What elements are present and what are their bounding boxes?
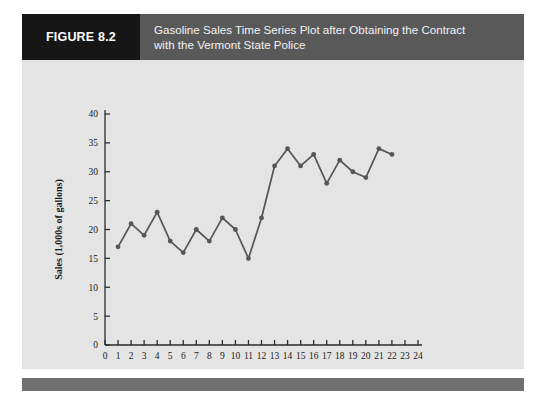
data-point	[220, 216, 225, 221]
x-tick-label: 22	[387, 351, 397, 361]
data-point	[363, 175, 368, 180]
y-tick-label: 0	[93, 340, 98, 350]
x-tick-label: 24	[413, 351, 423, 361]
data-point	[376, 146, 381, 151]
data-point	[259, 216, 264, 221]
figure-header-bar: FIGURE 8.2 Gasoline Sales Time Series Pl…	[22, 14, 524, 60]
figure-number-block: FIGURE 8.2	[22, 14, 140, 60]
y-tick-label: 10	[89, 283, 99, 293]
data-point	[390, 152, 395, 157]
data-point	[233, 227, 238, 232]
x-tick-label: 7	[194, 351, 199, 361]
x-tick-label: 17	[322, 351, 332, 361]
figure-number-label: FIGURE 8.2	[46, 30, 116, 44]
data-point	[350, 169, 355, 174]
data-point	[298, 164, 303, 169]
x-tick-label: 16	[309, 351, 319, 361]
data-point	[311, 152, 316, 157]
y-tick-label: 40	[89, 109, 99, 119]
data-point	[168, 239, 173, 244]
x-tick-label: 23	[400, 351, 410, 361]
y-axis-title: Sales (1,000s of gallons)	[53, 179, 65, 280]
x-tick-label: 19	[348, 351, 358, 361]
x-tick-label: 9	[220, 351, 225, 361]
figure-caption-line-2: with the Vermont State Police	[154, 38, 305, 51]
y-tick-label: 35	[89, 138, 99, 148]
data-series-gasoline-sales	[116, 146, 395, 261]
x-tick-label: 1	[116, 351, 121, 361]
x-tick-label: 15	[296, 351, 306, 361]
data-point	[181, 250, 186, 255]
data-point	[246, 256, 251, 261]
x-tick-label: 13	[270, 351, 280, 361]
x-tick-label: 20	[361, 351, 371, 361]
figure-caption-line-1: Gasoline Sales Time Series Plot after Ob…	[154, 23, 465, 36]
figure-card: FIGURE 8.2 Gasoline Sales Time Series Pl…	[22, 14, 524, 369]
x-tick-label: 3	[142, 351, 147, 361]
data-point	[324, 181, 329, 186]
x-tick-label: 12	[257, 351, 267, 361]
data-point	[129, 221, 134, 226]
data-point	[285, 146, 290, 151]
y-tick-label: 5	[93, 312, 98, 322]
data-point	[337, 158, 342, 163]
y-tick-label: 20	[89, 225, 99, 235]
chart-plot-region: 0510152025303540 01234567891011121314151…	[22, 60, 524, 369]
y-axis: 0510152025303540	[89, 109, 111, 350]
x-tick-label: 8	[207, 351, 212, 361]
x-tick-label: 21	[374, 351, 384, 361]
data-point	[194, 227, 199, 232]
figure-footer-bar	[22, 378, 524, 391]
data-point	[207, 239, 212, 244]
data-point	[116, 244, 121, 249]
y-tick-label: 25	[89, 196, 99, 206]
figure-caption: Gasoline Sales Time Series Plot after Ob…	[140, 14, 524, 60]
x-tick-label: 10	[231, 351, 241, 361]
x-axis-title: Week	[250, 367, 274, 369]
data-point	[272, 164, 277, 169]
x-tick-label: 0	[103, 351, 108, 361]
x-tick-label: 18	[335, 351, 345, 361]
figure-caption-text: Gasoline Sales Time Series Plot after Ob…	[154, 22, 465, 52]
x-axis: 0123456789101112131415161718192021222324	[103, 340, 423, 361]
x-tick-label: 4	[155, 351, 160, 361]
x-tick-label: 11	[244, 351, 253, 361]
x-tick-label: 5	[168, 351, 173, 361]
y-tick-label: 15	[89, 254, 99, 264]
data-point	[155, 210, 160, 215]
data-point	[142, 233, 147, 238]
x-tick-label: 6	[181, 351, 186, 361]
y-tick-label: 30	[89, 167, 99, 177]
x-tick-label: 2	[129, 351, 134, 361]
time-series-line-chart: 0510152025303540 01234567891011121314151…	[22, 60, 524, 369]
x-tick-label: 14	[283, 351, 293, 361]
